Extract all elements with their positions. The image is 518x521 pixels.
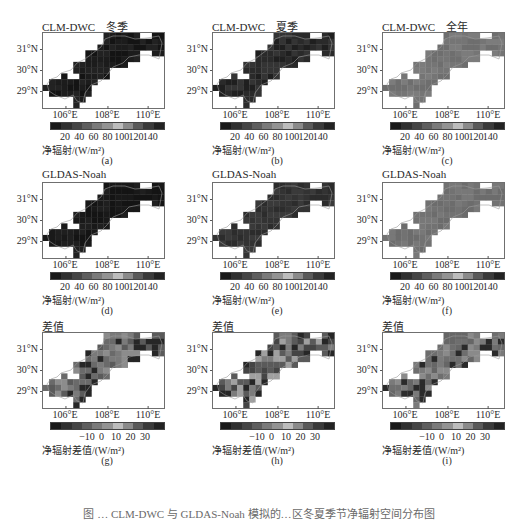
colorbar-tick-label: 140 <box>483 281 498 292</box>
lon-label-106e: 106°E <box>222 409 247 420</box>
colorbar-swatch <box>494 273 504 279</box>
colorbar-tick-label: 60 <box>88 281 98 292</box>
colorbar-tick-label: 60 <box>258 281 268 292</box>
panel-title: GLDAS-Noah <box>382 168 446 180</box>
colorbar-swatch <box>463 423 473 429</box>
map-frame <box>42 182 165 259</box>
colorbar-tick-label: 40 <box>414 281 424 292</box>
colorbar-swatch <box>283 423 293 429</box>
lon-label-106e: 106°E <box>52 409 77 420</box>
lon-label-110e: 110°E <box>476 259 501 270</box>
lon-label-110e: 110°E <box>136 409 161 420</box>
colorbar-swatch <box>51 423 61 429</box>
colorbar-swatch <box>473 273 483 279</box>
colorbar-tick-label: 20 <box>230 281 240 292</box>
lon-label-108e: 108°E <box>264 109 289 120</box>
lat-label-30n: 30°N <box>182 214 208 225</box>
colorbar <box>50 122 165 130</box>
colorbar-swatch <box>113 123 123 129</box>
lat-label-31n: 31°N <box>182 43 208 54</box>
lon-label-108e: 108°E <box>94 109 119 120</box>
colorbar-swatch <box>154 123 164 129</box>
colorbar-swatch <box>412 123 422 129</box>
lon-label-108e: 108°E <box>264 409 289 420</box>
colorbar-swatch <box>262 423 272 429</box>
map-frame <box>212 332 335 409</box>
lon-label-106e: 106°E <box>392 259 417 270</box>
colorbar-tick-label: 80 <box>103 131 113 142</box>
colorbar-swatch <box>154 423 164 429</box>
map-panel-f: GLDAS-Noah 31°N 30°N 29°N 106°E 108°E 11… <box>340 150 510 300</box>
colorbar-swatch <box>412 273 422 279</box>
map-frame <box>42 332 165 409</box>
colorbar-swatch <box>401 423 411 429</box>
map-frame <box>382 332 505 409</box>
colorbar-tick-label: 60 <box>428 131 438 142</box>
colorbar-swatch <box>412 423 422 429</box>
panel-title: GLDAS-Noah <box>212 168 276 180</box>
panel-label: (g) <box>101 455 113 466</box>
colorbar-tick-label: 60 <box>88 131 98 142</box>
map-panel-g: 差值 31°N 30°N 29°N 106°E 108°E 110°E −100… <box>0 300 170 450</box>
lon-label-110e: 110°E <box>476 109 501 120</box>
lon-label-108e: 108°E <box>94 259 119 270</box>
colorbar-swatch <box>432 423 442 429</box>
colorbar <box>220 422 335 430</box>
colorbar-swatch <box>242 123 252 129</box>
colorbar-tick-label: 120 <box>299 131 314 142</box>
colorbar-swatch <box>133 123 143 129</box>
colorbar-tick-label: −10 <box>249 431 265 442</box>
colorbar-swatch <box>51 123 61 129</box>
colorbar-unit-label: 净辐射差值/(W/m²) <box>382 442 464 457</box>
net-radiation-grid <box>43 183 164 258</box>
colorbar-swatch <box>82 123 92 129</box>
lat-label-29n: 29°N <box>12 85 38 96</box>
colorbar-swatch <box>272 123 282 129</box>
lat-label-30n: 30°N <box>182 364 208 375</box>
map-panel-e: GLDAS-Noah 31°N 30°N 29°N 106°E 108°E 11… <box>170 150 340 300</box>
lat-label-29n: 29°N <box>182 235 208 246</box>
colorbar-swatch <box>432 123 442 129</box>
colorbar-swatch <box>313 273 323 279</box>
lon-label-108e: 108°E <box>94 409 119 420</box>
colorbar-swatch <box>313 123 323 129</box>
colorbar-swatch <box>293 123 303 129</box>
lat-label-31n: 31°N <box>352 193 378 204</box>
colorbar-swatch <box>82 423 92 429</box>
colorbar-tick-label: 20 <box>296 431 306 442</box>
colorbar-swatch <box>242 273 252 279</box>
colorbar-tick-label: −10 <box>419 431 435 442</box>
lat-label-31n: 31°N <box>182 193 208 204</box>
colorbar-tick-label: 140 <box>483 131 498 142</box>
lat-label-30n: 30°N <box>12 64 38 75</box>
colorbar-tick-label: 20 <box>400 131 410 142</box>
lon-label-108e: 108°E <box>434 109 459 120</box>
lat-label-30n: 30°N <box>182 64 208 75</box>
map-frame <box>382 32 505 109</box>
colorbar-swatch <box>143 423 153 429</box>
colorbar-swatch <box>391 273 401 279</box>
colorbar-swatch <box>143 273 153 279</box>
colorbar-tick-label: 60 <box>428 281 438 292</box>
colorbar <box>390 272 505 280</box>
net-radiation-grid <box>383 333 504 408</box>
panel-label: (h) <box>271 455 283 466</box>
colorbar-swatch <box>303 123 313 129</box>
lon-label-106e: 106°E <box>52 259 77 270</box>
map-frame <box>212 182 335 259</box>
colorbar-swatch <box>483 123 493 129</box>
colorbar-swatch <box>293 423 303 429</box>
net-radiation-grid <box>383 183 504 258</box>
lat-label-29n: 29°N <box>182 385 208 396</box>
colorbar-swatch <box>154 273 164 279</box>
colorbar-swatch <box>123 423 133 429</box>
colorbar-swatch <box>324 423 334 429</box>
map-panel-i: 差值 31°N 30°N 29°N 106°E 108°E 110°E −100… <box>340 300 510 450</box>
lat-label-31n: 31°N <box>12 43 38 54</box>
lat-label-31n: 31°N <box>352 343 378 354</box>
lon-label-110e: 110°E <box>306 409 331 420</box>
colorbar-swatch <box>61 273 71 279</box>
colorbar-swatch <box>473 423 483 429</box>
colorbar-swatch <box>123 273 133 279</box>
lon-label-110e: 110°E <box>136 259 161 270</box>
